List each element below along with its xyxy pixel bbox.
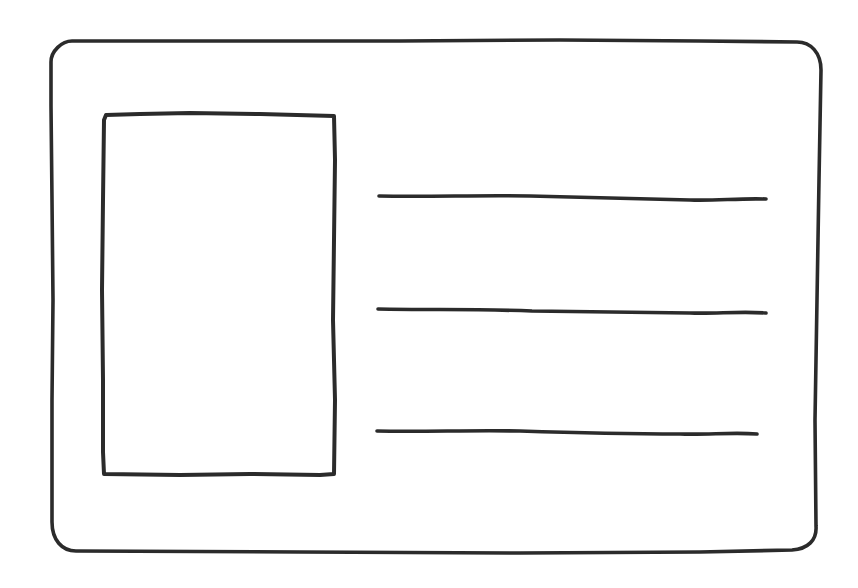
sketch-canvas: Card Wireframe Sketch Hand-drawn wirefra…: [0, 0, 858, 588]
wireframe-drawing: [0, 0, 858, 588]
text-line-2[interactable]: [378, 309, 766, 313]
text-line-3[interactable]: [377, 431, 757, 434]
image-placeholder[interactable]: [102, 113, 335, 475]
text-line-1[interactable]: [379, 196, 766, 200]
